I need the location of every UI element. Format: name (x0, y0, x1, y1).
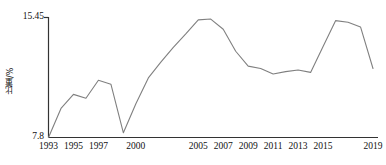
x-axis-tick-label: 2013 (289, 141, 308, 152)
x-axis-tick-label: 2011 (264, 141, 283, 152)
x-axis-tick-label: 2005 (189, 141, 208, 152)
chart-figure: 比重/% 15.45 7.8 1993199519972000200520072… (0, 0, 386, 165)
x-axis-tick-label: 2019 (364, 141, 383, 152)
x-axis-tick-label: 2015 (314, 141, 333, 152)
x-axis-tick-label: 2007 (214, 141, 233, 152)
x-axis-tick-label: 1995 (64, 141, 83, 152)
x-axis-tick-label: 1997 (89, 141, 108, 152)
x-axis-tick-label: 1993 (39, 141, 58, 152)
x-axis-tick-label: 2000 (126, 141, 145, 152)
x-axis-tick-label: 2009 (239, 141, 258, 152)
data-series-line (49, 19, 374, 137)
